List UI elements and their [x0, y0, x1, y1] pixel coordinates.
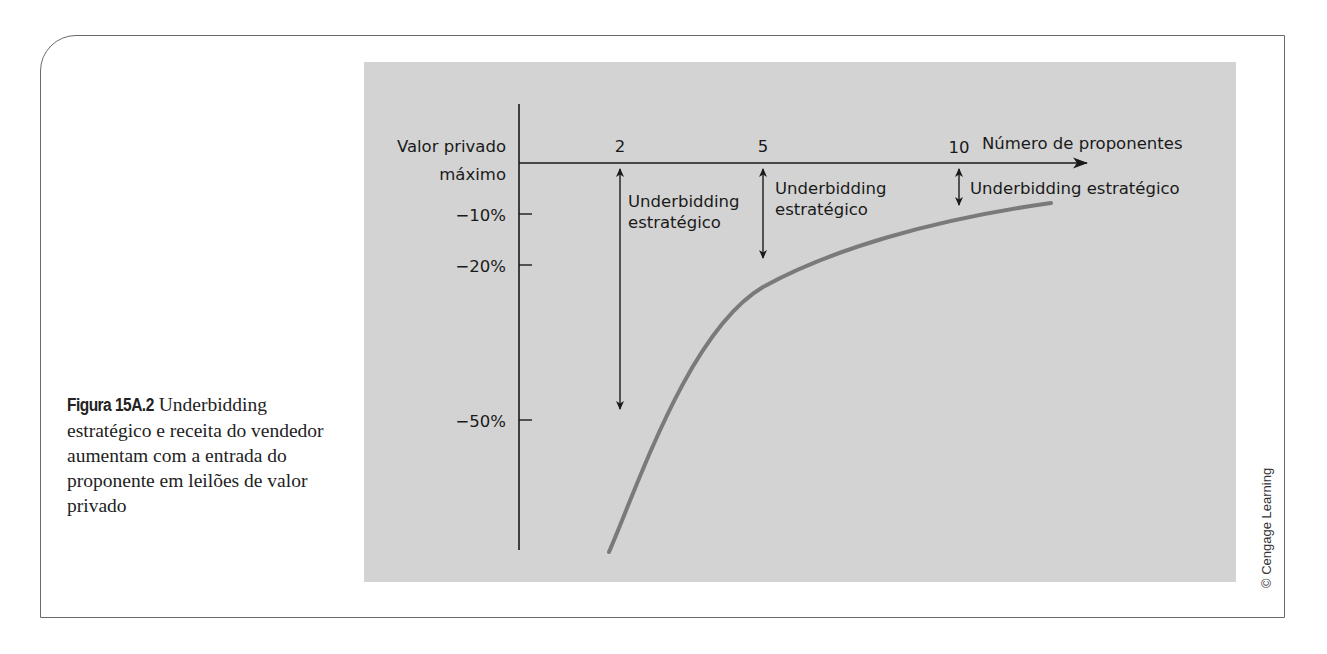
annotation-5-line1: Underbidding: [775, 179, 886, 198]
y-tick-label-50: −50%: [456, 412, 507, 431]
x-tick-label-5: 5: [758, 137, 769, 156]
figure-caption: Figura 15A.2 Underbidding estratégico e …: [67, 392, 337, 518]
x-axis-title: Número de proponentes: [982, 134, 1183, 153]
chart: Valor privado máximo −10% −20% −50% 2 5 …: [0, 0, 1327, 654]
y-label-top-line2: máximo: [439, 165, 506, 184]
annotation-5-line2: estratégico: [775, 200, 868, 219]
bid-curve: [609, 203, 1051, 552]
y-label-top-line1: Valor privado: [397, 137, 506, 156]
y-tick-label-10: −10%: [456, 206, 507, 225]
copyright-credit: © Cengage Learning: [1259, 468, 1274, 588]
annotation-2-line2: estratégico: [628, 213, 721, 232]
x-tick-label-10: 10: [949, 138, 970, 157]
figure-label: Figura 15A.2: [67, 393, 154, 418]
x-tick-label-2: 2: [615, 137, 626, 156]
y-tick-label-20: −20%: [456, 257, 507, 276]
annotation-10: Underbidding estratégico: [970, 179, 1180, 198]
annotation-2-line1: Underbidding: [628, 192, 739, 211]
